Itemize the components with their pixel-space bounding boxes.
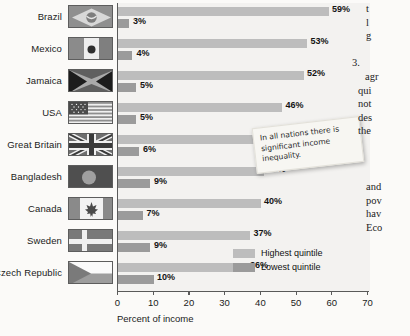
text-line: l <box>366 16 371 30</box>
country-label: Czech Republic <box>0 267 62 278</box>
bar-value-label-lowest: 5% <box>140 112 153 122</box>
x-axis-tick-label: 20 <box>184 297 195 308</box>
country-row: Mexico <box>0 32 66 64</box>
legend-item-highest-quintile: Highest quintile <box>233 247 323 259</box>
bar-lowest-quintile <box>118 243 150 252</box>
brazil-flag <box>68 5 113 28</box>
country-row: Great Britain <box>0 128 66 160</box>
x-axis-tick-label: 0 <box>115 297 120 308</box>
bar-highest-quintile <box>118 71 304 80</box>
bar-value-label-highest: 52% <box>307 68 325 78</box>
text-line: des <box>358 111 378 125</box>
bar-highest-quintile <box>118 7 329 16</box>
x-axis-tick-label: 40 <box>255 297 266 308</box>
flag-row <box>68 160 114 192</box>
x-axis-tick <box>188 291 189 295</box>
bangladesh-flag <box>68 165 113 188</box>
x-axis-tick <box>260 291 261 295</box>
text-line: agr <box>358 70 378 84</box>
bar-lowest-quintile <box>118 275 154 284</box>
flag-row <box>68 64 114 96</box>
text-line: the <box>358 124 378 138</box>
bar-lowest-quintile <box>118 83 136 92</box>
flag-column <box>68 0 114 288</box>
bar-highest-quintile <box>118 263 247 272</box>
text-line: g <box>366 29 371 43</box>
bar-pair: 52% 5% <box>118 67 370 99</box>
bar-lowest-quintile <box>118 179 150 188</box>
x-axis-tick <box>331 291 332 295</box>
text-line: pov <box>366 194 382 208</box>
x-axis-tick <box>153 291 154 295</box>
bar-lowest-quintile <box>118 19 129 28</box>
country-label-column: Brazil Mexico Jamaica USA Great Britain … <box>0 0 66 288</box>
flag-row <box>68 224 114 256</box>
legend-swatch-lowest <box>233 263 255 272</box>
country-row: USA <box>0 96 66 128</box>
chart-page: Brazil Mexico Jamaica USA Great Britain … <box>0 0 410 336</box>
bar-lowest-quintile <box>118 211 143 220</box>
czech-republic-flag <box>68 261 113 284</box>
x-axis-tick-label: 60 <box>327 297 338 308</box>
flag-row <box>68 96 114 128</box>
country-label: Canada <box>28 203 62 214</box>
body-text-fragment-mid: agr qui not des the <box>358 70 378 138</box>
bar-value-label-highest: 37% <box>254 228 272 238</box>
text-line: hav <box>366 207 382 221</box>
legend-label: Lowest quintile <box>261 262 321 272</box>
mexico-flag <box>68 37 113 60</box>
flag-row <box>68 0 114 32</box>
country-label: Great Britain <box>7 139 62 150</box>
legend-label: Highest quintile <box>261 248 323 258</box>
flag-row <box>68 32 114 64</box>
bar-value-label-lowest: 9% <box>154 176 167 186</box>
bar-value-label-lowest: 7% <box>147 208 160 218</box>
jamaica-flag <box>68 69 113 92</box>
bar-value-label-highest: 59% <box>332 4 350 14</box>
bar-highest-quintile <box>118 135 275 144</box>
bar-highest-quintile <box>118 39 307 48</box>
bar-lowest-quintile <box>118 147 139 156</box>
country-label: Sweden <box>27 235 62 246</box>
bar-pair: 41% 9% <box>118 163 370 195</box>
x-axis-tick-label: 10 <box>148 297 159 308</box>
country-row: Czech Republic <box>0 256 66 288</box>
chart-legend: Highest quintile Lowest quintile <box>233 247 323 275</box>
bar-pair: 40% 7% <box>118 195 370 227</box>
text-line: and <box>366 180 382 194</box>
list-item-marker: 3. <box>352 56 360 70</box>
bar-value-label-lowest: 5% <box>140 80 153 90</box>
bar-pair: 59% 3% <box>118 3 370 35</box>
bar-value-label-highest: 53% <box>311 36 329 46</box>
bar-lowest-quintile <box>118 51 132 60</box>
country-row: Canada <box>0 192 66 224</box>
x-axis-tick-label: 50 <box>291 297 302 308</box>
usa-flag <box>68 101 113 124</box>
bar-value-label-lowest: 10% <box>157 272 175 282</box>
country-label: Bangladesh <box>11 171 62 182</box>
bar-pair: 53% 4% <box>118 35 370 67</box>
flag-row <box>68 256 114 288</box>
bar-highest-quintile <box>118 199 261 208</box>
x-axis-tick <box>117 291 118 295</box>
text-line: not <box>358 97 378 111</box>
x-axis-tick <box>296 291 297 295</box>
bar-highest-quintile <box>118 167 264 176</box>
bar-value-label-lowest: 4% <box>137 48 150 58</box>
country-label: Brazil <box>38 11 62 22</box>
bar-value-label-lowest: 9% <box>154 240 167 250</box>
bar-highest-quintile <box>118 103 282 112</box>
text-line: Eco <box>366 221 382 235</box>
body-text-fragment-top: t l g <box>366 2 371 43</box>
country-row: Sweden <box>0 224 66 256</box>
country-row: Brazil <box>0 0 66 32</box>
body-text-column: t l g 3. agr qui not des the and pov hav… <box>352 0 410 336</box>
text-line: t <box>366 2 371 16</box>
bar-value-label-highest: 46% <box>286 100 304 110</box>
flag-row <box>68 128 114 160</box>
text-line: qui <box>358 84 378 98</box>
bar-highest-quintile <box>118 231 250 240</box>
bar-lowest-quintile <box>118 115 136 124</box>
country-row: Jamaica <box>0 64 66 96</box>
legend-swatch-highest <box>233 249 255 258</box>
